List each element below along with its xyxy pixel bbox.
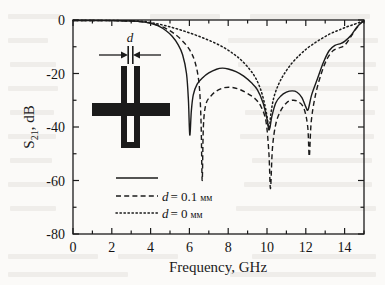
y-tick-labels: 0-20-40-60-80 [46, 13, 65, 242]
legend-eq-dotted: = 0 [171, 206, 188, 221]
legend-label-dashed: d= 0.1мм [162, 189, 212, 204]
inset-right-arrow-head [133, 52, 140, 59]
legend-units-dotted: мм [191, 210, 203, 220]
inset-dimension-label: d [127, 30, 134, 45]
legend-var-dashed: d [162, 189, 169, 204]
x-tick-label: 10 [260, 240, 274, 255]
y-tick-label: -20 [46, 67, 65, 82]
y-axis-title-rest: , dB [21, 105, 37, 130]
s21-frequency-chart: 02468101214 0-20-40-60-80 Frequency, GHz… [0, 0, 385, 285]
y-tick-label: -60 [46, 174, 65, 189]
x-tick-label: 2 [108, 240, 115, 255]
y-tick-label: 0 [58, 13, 65, 28]
svg-text:S21, dB: S21, dB [21, 105, 40, 148]
y-axis-title-sub: 21 [29, 130, 40, 140]
y-axis-title-main: S [21, 140, 37, 148]
axis-ticks [73, 20, 364, 234]
x-tick-label: 0 [70, 240, 77, 255]
inset-cross-strip [92, 103, 170, 116]
legend-units-dashed: мм [200, 193, 212, 203]
x-tick-labels: 02468101214 [70, 240, 352, 255]
legend: d= 0.1мм d= 0мм [116, 178, 212, 221]
x-tick-label: 4 [147, 240, 154, 255]
x-tick-label: 14 [338, 240, 352, 255]
y-tick-label: -80 [46, 227, 65, 242]
y-tick-label: -40 [46, 120, 65, 135]
y-axis-title: S21, dB [21, 105, 40, 148]
x-tick-label: 6 [186, 240, 193, 255]
legend-eq-dashed: = 0.1 [171, 189, 198, 204]
x-axis-title: Frequency, GHz [169, 259, 268, 275]
x-tick-label: 12 [299, 240, 313, 255]
x-tick-label: 8 [225, 240, 232, 255]
figure-container: 02468101214 0-20-40-60-80 Frequency, GHz… [0, 0, 385, 285]
inset-resonator-diagram: d [92, 30, 170, 148]
plot-frame [73, 20, 364, 234]
legend-label-dotted: d= 0мм [162, 206, 203, 221]
inset-left-arrow-head [121, 52, 128, 59]
legend-var-dotted: d [162, 206, 169, 221]
